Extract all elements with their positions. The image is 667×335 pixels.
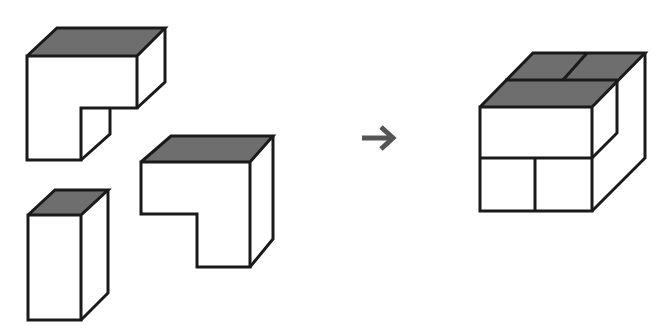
piece-2-front-face: [28, 215, 81, 320]
assembled-cube: [480, 53, 645, 211]
puzzle-diagram: [0, 0, 667, 335]
right-arrow-icon: [362, 127, 393, 149]
piece-3-l-block: [141, 136, 273, 267]
piece-1-inner-face: [81, 108, 110, 160]
piece-1-l-block: [27, 28, 165, 160]
piece-2-prism: [28, 190, 108, 320]
